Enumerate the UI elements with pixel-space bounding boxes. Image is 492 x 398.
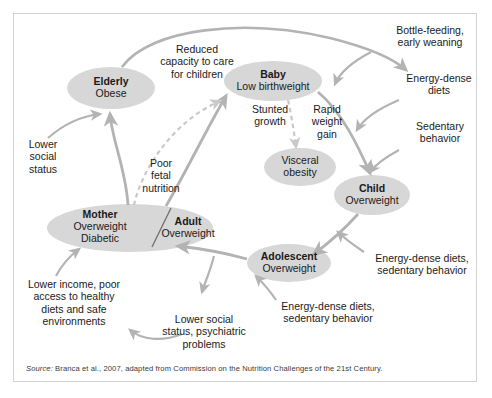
energy-dense-line1: Energy-dense: [406, 72, 471, 84]
lower-social-status-line3: status: [29, 163, 57, 175]
annotation-lower-income: Lower income, poor access to healthy die…: [14, 278, 134, 328]
annotation-bottle-feeding: Bottle-feeding, early weaning: [374, 24, 486, 49]
node-mother-line2: Overweight: [60, 221, 140, 233]
poor-fetal-line3: nutrition: [142, 182, 179, 194]
node-adolescent-line2: Overweight: [247, 263, 331, 275]
node-label-adult: Adult Overweight: [148, 216, 228, 240]
node-visceral-line1: Visceral: [264, 155, 336, 167]
lower-social-status-line2: social: [30, 150, 57, 162]
rapid-weight-line3: gain: [317, 128, 337, 140]
annotation-edd-sb-adolescent: Energy-dense diets, sedentary behavior: [272, 300, 384, 325]
node-child-line2: Overweight: [336, 195, 408, 207]
reduced-capacity-line3: for children: [171, 68, 223, 80]
rapid-weight-line1: Rapid: [313, 103, 340, 115]
node-label-mother: Mother Overweight Diabetic: [60, 209, 140, 244]
bottle-feeding-line2: early weaning: [398, 36, 463, 48]
node-adult-line2: Overweight: [148, 228, 228, 240]
source-citation: Source: Branca et al., 2007, adapted fro…: [26, 364, 383, 373]
lower-income-line1: Lower income, poor: [28, 278, 120, 290]
node-baby-line2: Low birthweight: [223, 81, 323, 93]
stunted-growth-line2: growth: [254, 115, 286, 127]
sedentary-line1: Sedentary: [416, 120, 464, 132]
annotation-poor-fetal-nutrition: Poor fetal nutrition: [128, 157, 194, 194]
node-label-child: Child Overweight: [336, 183, 408, 207]
annotation-sedentary-behavior: Sedentary behavior: [396, 120, 484, 145]
lower-social-psych-line1: Lower social: [175, 313, 233, 325]
source-separator: [14, 355, 476, 356]
node-adult-title: Adult: [148, 216, 228, 228]
figure-container: Elderly Obese Baby Low birthweight Visce…: [0, 0, 492, 398]
lower-income-line4: environments: [42, 315, 105, 327]
lower-social-psych-line2: status, psychiatric: [162, 325, 245, 337]
annotation-energy-dense-diets: Energy-dense diets: [392, 72, 486, 97]
reduced-capacity-line2: capacity to care: [160, 55, 234, 67]
node-elderly-line2: Obese: [71, 88, 151, 100]
poor-fetal-line1: Poor: [150, 157, 172, 169]
annotation-reduced-capacity: Reduced capacity to care for children: [137, 43, 257, 80]
node-child-title: Child: [336, 183, 408, 195]
energy-dense-line2: diets: [428, 84, 450, 96]
node-label-adolescent: Adolescent Overweight: [247, 251, 331, 275]
lower-social-psych-line3: problems: [182, 338, 225, 350]
node-mother-title: Mother: [60, 209, 140, 221]
node-mother-line3: Diabetic: [60, 233, 140, 245]
lower-social-status-line1: Lower: [29, 138, 58, 150]
edd-sb-child-line2: sedentary behavior: [377, 264, 466, 276]
annotation-edd-sb-child: Energy-dense diets, sedentary behavior: [366, 252, 478, 277]
lower-income-line2: access to healthy: [33, 290, 114, 302]
stunted-growth-line1: Stunted: [252, 103, 288, 115]
lower-income-line3: diets and safe: [41, 303, 106, 315]
annotation-rapid-weight-gain: Rapid weight gain: [303, 103, 351, 140]
annotation-stunted-growth: Stunted growth: [242, 103, 298, 128]
poor-fetal-line2: fetal: [151, 169, 171, 181]
rapid-weight-line2: weight: [312, 115, 342, 127]
edd-sb-child-line1: Energy-dense diets,: [375, 252, 468, 264]
edd-sb-adolescent-line2: sedentary behavior: [283, 312, 372, 324]
node-visceral-line2: obesity: [264, 167, 336, 179]
annotation-lower-social-status: Lower social status: [12, 138, 74, 175]
annotation-lower-social-psych: Lower social status, psychiatric problem…: [148, 313, 260, 350]
source-text: Branca et al., 2007, adapted from Commis…: [53, 364, 383, 373]
edd-sb-adolescent-line1: Energy-dense diets,: [281, 300, 374, 312]
node-adolescent-title: Adolescent: [247, 251, 331, 263]
node-label-visceral-obesity: Visceral obesity: [264, 155, 336, 179]
sedentary-line2: behavior: [420, 132, 460, 144]
reduced-capacity-line1: Reduced: [176, 43, 218, 55]
bottle-feeding-line1: Bottle-feeding,: [396, 24, 464, 36]
source-label: Source:: [26, 364, 53, 373]
